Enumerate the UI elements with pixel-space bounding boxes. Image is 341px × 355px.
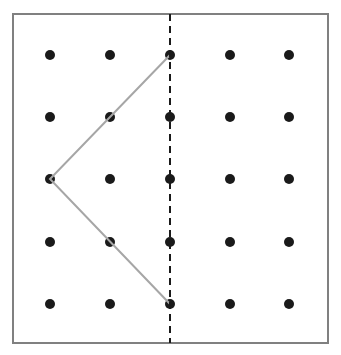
diagram-canvas — [0, 0, 341, 355]
grid-dot — [105, 50, 115, 60]
grid-dot — [225, 50, 235, 60]
grid-dot — [45, 50, 55, 60]
grid-dot — [225, 174, 235, 184]
grid-dot — [284, 50, 294, 60]
grid-dot — [284, 174, 294, 184]
grid-dot — [225, 237, 235, 247]
grid-dot — [105, 174, 115, 184]
grid-dot — [105, 299, 115, 309]
grid-dot — [225, 112, 235, 122]
grid-dot — [45, 237, 55, 247]
grid-dot — [225, 299, 235, 309]
grid-dot — [284, 299, 294, 309]
grid-dot — [284, 237, 294, 247]
grid-dot — [284, 112, 294, 122]
grid-dot — [45, 112, 55, 122]
grid-dot — [45, 299, 55, 309]
